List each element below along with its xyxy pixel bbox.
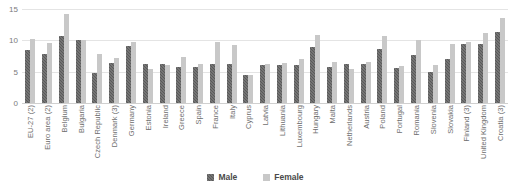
x-axis-label-cell: Netherlands (341, 105, 358, 167)
bar-female[interactable] (198, 64, 203, 103)
x-axis-label-cell: Lithuania (273, 105, 290, 167)
bar-female[interactable] (265, 64, 270, 103)
chart-legend: Male Female (0, 172, 511, 182)
bar-female[interactable] (399, 66, 404, 103)
x-axis-label: Czech Republic (93, 105, 102, 158)
x-axis-label: Estonia (143, 105, 152, 130)
legend-item-male[interactable]: Male (207, 172, 237, 182)
bar-female[interactable] (450, 44, 455, 103)
bar-female[interactable] (232, 45, 237, 103)
bar-female[interactable] (483, 33, 488, 103)
bar-group (223, 9, 240, 103)
x-axis-label-cell: Romania (408, 105, 425, 167)
bar-female[interactable] (64, 14, 69, 103)
bar-group (89, 9, 106, 103)
bar-group (123, 9, 140, 103)
bar-group (324, 9, 341, 103)
bar-female[interactable] (315, 35, 320, 103)
bar-female[interactable] (248, 75, 253, 103)
bar-group (72, 9, 89, 103)
bar-female[interactable] (30, 39, 35, 103)
x-axis-label-cell: Poland (374, 105, 391, 167)
bar-group (106, 9, 123, 103)
x-axis-label: Finland (3) (462, 105, 471, 141)
legend-label-female: Female (274, 172, 303, 182)
x-axis-label-cell: Euro area (2) (39, 105, 56, 167)
bar-female[interactable] (97, 54, 102, 104)
y-axis-tick-label: 0 (13, 99, 18, 108)
bar-female[interactable] (165, 65, 170, 103)
bar-group (173, 9, 190, 103)
bar-female[interactable] (131, 42, 136, 103)
bar-female[interactable] (47, 43, 52, 103)
bar-female[interactable] (500, 18, 505, 103)
x-axis-label: Malta (328, 105, 337, 124)
bar-group (391, 9, 408, 103)
x-axis-label: Hungary (311, 105, 320, 134)
bar-female[interactable] (81, 40, 86, 103)
legend-item-female[interactable]: Female (263, 172, 303, 182)
bar-group (56, 9, 73, 103)
x-axis-label-cell: Finland (3) (458, 105, 475, 167)
bar-group (257, 9, 274, 103)
bar-female[interactable] (215, 42, 220, 103)
bar-group (190, 9, 207, 103)
bar-group (307, 9, 324, 103)
bar-group (441, 9, 458, 103)
x-axis-label-cell: Bulgaria (72, 105, 89, 167)
bar-chart: 051015 EU-27 (2)Euro area (2)BelgiumBulg… (0, 0, 511, 191)
x-axis-label: EU-27 (2) (26, 105, 35, 138)
x-axis-label-cell: Austria (357, 105, 374, 167)
x-axis-label-cell: Spain (190, 105, 207, 167)
x-axis-label-cell: Czech Republic (89, 105, 106, 167)
bar-group (206, 9, 223, 103)
bar-female[interactable] (282, 63, 287, 103)
x-axis-label-cell: Latvia (257, 105, 274, 167)
bar-female[interactable] (299, 59, 304, 103)
bar-female[interactable] (148, 69, 153, 103)
x-axis-label-cell: EU-27 (2) (22, 105, 39, 167)
x-axis-label-cell: Ireland (156, 105, 173, 167)
x-axis-label-cell: United Kingdom (475, 105, 492, 167)
y-axis-tick-label: 15 (9, 5, 18, 14)
bar-female[interactable] (349, 69, 354, 103)
x-axis-label-cell: France (206, 105, 223, 167)
bar-group (491, 9, 508, 103)
bar-female[interactable] (416, 40, 421, 103)
x-axis-label: Bulgaria (76, 105, 85, 133)
x-axis-label-cell: Germany (123, 105, 140, 167)
x-axis-label: Latvia (261, 105, 270, 125)
bar-group (475, 9, 492, 103)
x-axis-labels: EU-27 (2)Euro area (2)BelgiumBulgariaCze… (22, 105, 508, 167)
x-axis-label: Slovakia (445, 105, 454, 134)
x-axis-label-cell: Denmark (3) (106, 105, 123, 167)
bar-group (374, 9, 391, 103)
x-axis-label-cell: Belgium (56, 105, 73, 167)
bar-group (357, 9, 374, 103)
x-axis-label-cell: Portugal (391, 105, 408, 167)
x-axis-label: Portugal (395, 105, 404, 133)
bar-group (458, 9, 475, 103)
bar-female[interactable] (181, 57, 186, 103)
bar-female[interactable] (433, 65, 438, 103)
bar-female[interactable] (466, 42, 471, 103)
x-axis-label: Belgium (59, 105, 68, 132)
x-axis-label-cell: Estonia (139, 105, 156, 167)
bar-group (424, 9, 441, 103)
bar-group (39, 9, 56, 103)
y-axis-tick-label: 5 (13, 67, 18, 76)
x-axis-label: Luxembourg (294, 105, 303, 147)
x-axis-label-cell: Malta (324, 105, 341, 167)
bar-female[interactable] (332, 62, 337, 103)
bar-group (156, 9, 173, 103)
bar-group (290, 9, 307, 103)
x-axis-label-cell: Slovenia (424, 105, 441, 167)
x-axis-label: Croatia (3) (495, 105, 504, 141)
bar-female[interactable] (366, 62, 371, 103)
x-axis-label: Greece (177, 105, 186, 130)
x-axis-label: Spain (194, 105, 203, 124)
bar-female[interactable] (114, 58, 119, 103)
bar-female[interactable] (382, 36, 387, 103)
y-axis: 051015 (0, 0, 22, 112)
x-axis-label-cell: Luxembourg (290, 105, 307, 167)
